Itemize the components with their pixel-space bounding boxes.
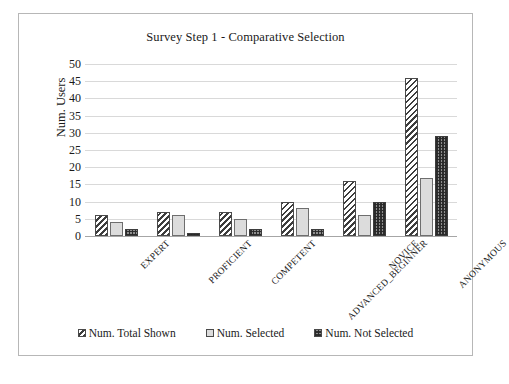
- bar-group: [281, 64, 324, 236]
- bar: [125, 229, 138, 236]
- legend-item[interactable]: Num. Selected: [206, 327, 285, 339]
- y-axis-tick-label: 35: [45, 110, 81, 122]
- legend-label: Num. Total Shown: [89, 327, 176, 339]
- y-axis-tick-label: 30: [45, 127, 81, 139]
- bar: [296, 208, 309, 236]
- chart-title: Survey Step 1 - Comparative Selection: [19, 30, 472, 45]
- bar: [234, 219, 247, 236]
- bar: [157, 212, 170, 236]
- bar-group: [343, 64, 386, 236]
- bar: [281, 202, 294, 236]
- legend-item[interactable]: Num. Not Selected: [314, 327, 413, 339]
- bar: [110, 222, 123, 236]
- bar: [405, 78, 418, 236]
- bar-group: [219, 64, 262, 236]
- chart-frame: Survey Step 1 - Comparative Selection Nu…: [18, 13, 473, 356]
- chart-legend: Num. Total ShownNum. SelectedNum. Not Se…: [19, 327, 472, 339]
- x-axis-category-labels: EXPERTPROFICIENTCOMPETENTADVANCED_BEGINN…: [85, 238, 457, 334]
- bar: [435, 136, 448, 236]
- y-axis-tick-labels: 50454035302520151050: [45, 64, 81, 236]
- legend-label: Num. Selected: [217, 327, 285, 339]
- y-axis-tick-label: 45: [45, 75, 81, 87]
- bar-group: [95, 64, 138, 236]
- x-axis-category-label: EXPERT: [139, 238, 172, 271]
- legend-item[interactable]: Num. Total Shown: [78, 327, 176, 339]
- y-axis-tick-label: 15: [45, 178, 81, 190]
- y-axis-tick-label: 40: [45, 92, 81, 104]
- bars-layer: [85, 64, 457, 236]
- bar: [95, 215, 108, 236]
- x-axis-category-label: ADVANCED_BEGINNER: [346, 238, 430, 322]
- plot-area: [85, 64, 457, 236]
- y-axis-tick-label: 50: [45, 58, 81, 70]
- bar: [187, 233, 200, 236]
- bar: [172, 215, 185, 236]
- x-axis-category-label: COMPETENT: [269, 238, 318, 287]
- bar: [358, 215, 371, 236]
- bar: [311, 229, 324, 236]
- y-axis-tick-label: 0: [45, 230, 81, 242]
- y-axis-tick-label: 20: [45, 161, 81, 173]
- gridline: [85, 236, 457, 237]
- bar: [219, 212, 232, 236]
- bar: [343, 181, 356, 236]
- x-axis-category-label: ANONYMOUS: [457, 238, 509, 290]
- bar-group: [157, 64, 200, 236]
- legend-swatch-icon: [78, 329, 86, 337]
- legend-swatch-icon: [314, 329, 322, 337]
- bar-group: [405, 64, 448, 236]
- bar: [249, 229, 262, 236]
- legend-swatch-icon: [206, 329, 214, 337]
- y-axis-tick-label: 25: [45, 144, 81, 156]
- y-axis-tick-label: 5: [45, 213, 81, 225]
- bar: [420, 178, 433, 236]
- y-axis-tick-label: 10: [45, 196, 81, 208]
- bar: [373, 202, 386, 236]
- legend-label: Num. Not Selected: [325, 327, 413, 339]
- x-axis-category-label: PROFICIENT: [207, 238, 254, 285]
